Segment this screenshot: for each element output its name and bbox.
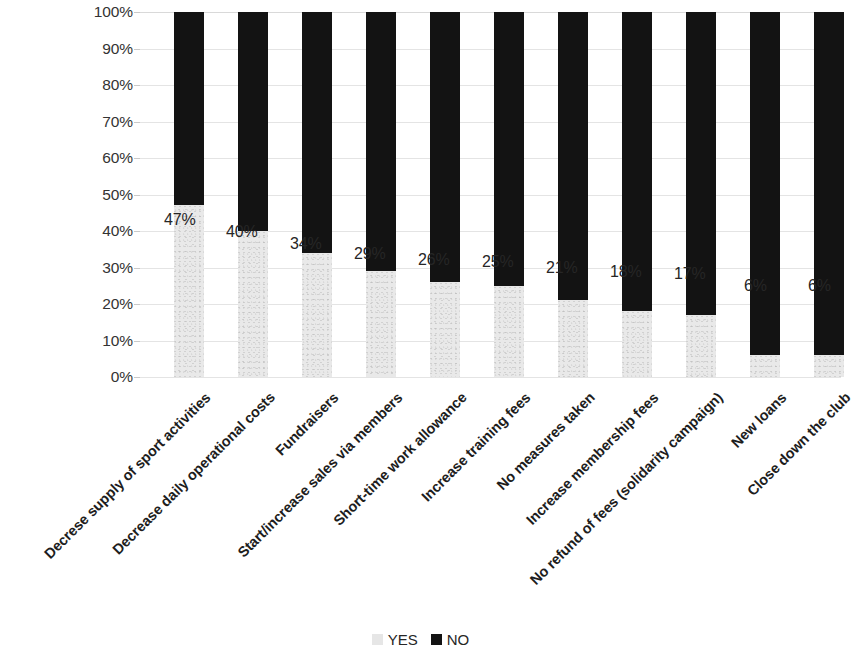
y-tick-label: 100% [63,4,133,20]
bar-data-label: 17% [674,266,705,282]
bar-column[interactable] [750,12,780,377]
y-tick-label: 40% [63,223,133,239]
y-tick-label: 20% [63,296,133,312]
legend-swatch-no-icon [431,634,442,645]
bar-data-label: 47% [164,212,195,228]
bar-segment-no[interactable] [238,12,268,231]
bar-segment-yes[interactable] [302,253,332,377]
bar-segment-yes[interactable] [494,286,524,377]
bar-column[interactable] [174,12,204,377]
bar-data-label: 6% [808,278,831,294]
bar-data-label: 21% [546,260,577,276]
bar-data-label: 26% [418,252,449,268]
legend-label-no: NO [447,632,470,647]
bar-data-label: 6% [744,278,767,294]
bar-segment-yes[interactable] [814,355,844,377]
bar-data-label: 34% [290,236,321,252]
bar-column[interactable] [814,12,844,377]
y-tick-label: 0% [63,369,133,385]
bar-segment-no[interactable] [494,12,524,286]
gridline-0 [140,377,841,378]
bar-column[interactable] [238,12,268,377]
y-tick-label: 60% [63,150,133,166]
bar-column[interactable] [558,12,588,377]
category-label: Fundraisers [273,390,342,459]
bar-segment-no[interactable] [750,12,780,355]
legend: YES NO [0,632,841,647]
bar-column[interactable] [686,12,716,377]
bar-column[interactable] [302,12,332,377]
bar-segment-yes[interactable] [750,355,780,377]
bar-segment-yes[interactable] [622,311,652,377]
y-tick-label: 10% [63,333,133,349]
bar-segment-no[interactable] [302,12,332,253]
bar-segment-no[interactable] [430,12,460,282]
bar-segment-yes[interactable] [238,231,268,377]
bar-column[interactable] [494,12,524,377]
bar-segment-yes[interactable] [430,282,460,377]
category-label: Short-time work allowance [331,390,470,529]
bar-column[interactable] [366,12,396,377]
bar-segment-no[interactable] [814,12,844,355]
y-tick-label: 50% [63,187,133,203]
legend-label-yes: YES [388,632,418,647]
bar-data-label: 25% [482,254,513,270]
y-axis: 100% 90% 80% 70% 60% 50% 40% 30% 20% 10%… [55,0,133,390]
bar-data-label: 40% [226,224,257,240]
bar-segment-no[interactable] [558,12,588,300]
y-tick-label: 80% [63,77,133,93]
y-tick-label: 70% [63,114,133,130]
y-tick-label: 30% [63,260,133,276]
bar-segment-yes[interactable] [558,300,588,377]
bar-segment-no[interactable] [174,12,204,205]
bar-data-label: 18% [610,264,641,280]
bar-data-label: 29% [354,246,385,262]
category-label: Increase membership fees [524,390,662,528]
bar-segment-yes[interactable] [174,205,204,377]
bar-column[interactable] [622,12,652,377]
legend-item-yes[interactable]: YES [372,632,418,647]
category-label: Increase training fees [419,390,533,504]
category-label: New loans [729,390,790,451]
legend-item-no[interactable]: NO [431,632,470,647]
bar-segment-no[interactable] [366,12,396,271]
bar-segment-yes[interactable] [366,271,396,377]
bar-segment-yes[interactable] [686,315,716,377]
y-tick-label: 90% [63,41,133,57]
legend-swatch-yes-icon [372,634,383,645]
bar-column[interactable] [430,12,460,377]
